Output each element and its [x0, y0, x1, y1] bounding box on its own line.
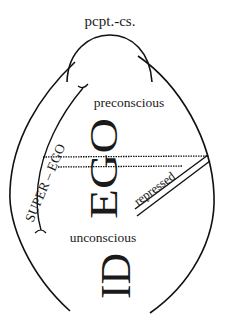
label-id: ID: [93, 253, 139, 299]
label-preconscious: preconscious: [94, 95, 164, 110]
psyche-diagram: pcpt.-cs. preconscious unconscious SUPER…: [0, 0, 225, 331]
perception-consciousness-arc: [67, 35, 152, 82]
super-ego-hook-bottom: [35, 230, 46, 233]
super-ego-hook-top: [78, 84, 88, 88]
label-ego: EGO: [81, 118, 126, 219]
label-unconscious: unconscious: [70, 230, 137, 245]
label-pcpt-cs: pcpt.-cs.: [85, 13, 136, 29]
